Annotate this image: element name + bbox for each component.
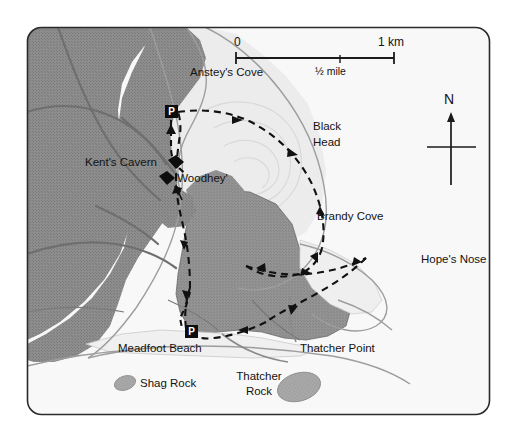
label-thatcher-point: Thatcher Point (300, 342, 375, 355)
label-meadfoot-beach: Meadfoot Beach (118, 342, 202, 355)
scale-mile-label: ½ mile (315, 66, 346, 78)
label-brandy-cove: Brandy Cove (317, 210, 383, 223)
parking-marker-south[interactable]: P (185, 325, 198, 338)
label-thatcher-rock-line1: Thatcher (228, 370, 290, 383)
compass-north-label: N (444, 92, 454, 108)
label-shag-rock: Shag Rock (140, 377, 196, 390)
label-thatcher-rock-line2: Rock (228, 385, 290, 398)
scale-zero-label: 0 (234, 36, 241, 49)
parking-marker-north[interactable]: P (165, 105, 178, 118)
scale-km-label: 1 km (378, 36, 404, 49)
label-black-head-line1: Black (313, 120, 341, 133)
map-body (20, 20, 500, 425)
label-black-head-line2: Head (313, 136, 341, 149)
label-ansteys-cove: Anstey's Cove (190, 66, 263, 79)
label-woodhey: 'Woodhey' (175, 172, 228, 185)
label-hopes-nose: Hope's Nose (421, 253, 486, 266)
map-container: 0 1 km ½ mile N Anstey's Cove Black Head… (0, 0, 514, 439)
label-kents-cavern: Kent's Cavern (85, 156, 157, 169)
